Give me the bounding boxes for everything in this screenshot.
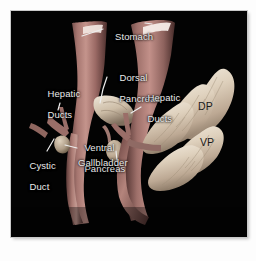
label-ventral-pancreas-line1: Ventral — [84, 142, 114, 153]
label-hepatic-ducts-left-line2: Ducts — [47, 109, 72, 120]
label-vp-abbrev: VP — [200, 137, 214, 148]
label-cystic-duct: Cystic Duct — [13, 150, 56, 203]
label-gallbladder: Gallbladder — [78, 158, 128, 169]
label-dp-abbrev: DP — [198, 101, 213, 112]
illustration-plate: Stomach Dorsal Pancreas Hepatic Ducts He… — [11, 11, 247, 237]
figure-root: Stomach Dorsal Pancreas Hepatic Ducts He… — [0, 0, 256, 261]
bottom-vignette — [11, 207, 247, 237]
label-hepatic-ducts-right: Hepatic Ducts — [131, 82, 180, 135]
label-cystic-duct-line2: Duct — [29, 181, 49, 192]
label-hepatic-ducts-left-line1: Hepatic — [47, 88, 80, 99]
label-dorsal-pancreas-line1: Dorsal — [119, 72, 147, 83]
label-hepatic-ducts-right-line2: Ducts — [147, 113, 172, 124]
label-cystic-duct-line1: Cystic — [29, 160, 55, 171]
label-hepatic-ducts-left: Hepatic Ducts — [31, 78, 80, 131]
label-hepatic-ducts-right-line1: Hepatic — [147, 92, 180, 103]
label-stomach: Stomach — [115, 32, 153, 43]
